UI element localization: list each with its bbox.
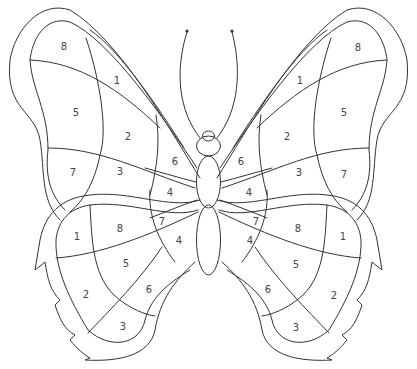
number-label: 7: [341, 169, 347, 180]
number-label: 5: [341, 107, 347, 118]
number-label: 3: [296, 167, 302, 178]
number-label: 2: [331, 290, 337, 301]
number-label: 1: [74, 231, 80, 242]
number-label: 8: [61, 41, 67, 52]
lower-left-numbers: 1 8 5 2 6 3: [74, 223, 152, 332]
upper-right-vein-4: [259, 115, 267, 195]
lower-right-wing: [217, 190, 382, 360]
head: [197, 136, 221, 156]
number-label: 1: [114, 75, 120, 86]
number-label: 4: [246, 187, 252, 198]
number-label: 6: [172, 156, 178, 167]
number-label: 4: [176, 235, 182, 246]
lower-left-wing-inner-outline: [56, 204, 198, 342]
number-label: 8: [117, 223, 123, 234]
number-label: 4: [167, 187, 173, 198]
number-label: 1: [297, 75, 303, 86]
number-label: 5: [73, 107, 79, 118]
body-side-numbers: 4 4 7 7 4 4: [159, 187, 259, 246]
number-label: 6: [238, 156, 244, 167]
number-label: 8: [355, 42, 361, 53]
number-label: 4: [247, 235, 253, 246]
number-label: 3: [117, 166, 123, 177]
number-label: 8: [295, 223, 301, 234]
number-label: 6: [265, 284, 271, 295]
number-label: 5: [293, 259, 299, 270]
right-antenna-tip: [230, 29, 233, 32]
left-antenna: [180, 32, 200, 138]
upper-left-numbers: 8 1 5 2 7 3 6: [61, 41, 178, 178]
upper-right-vein-2: [314, 38, 347, 212]
number-label: 2: [83, 289, 89, 300]
number-label: 3: [120, 321, 126, 332]
upper-left-vein-4: [150, 115, 158, 195]
number-label: 2: [125, 131, 131, 142]
butterfly-drawing: 8 1 5 2 7 3 6 8 1 5 2 7 3 6 4 4 7 7 4 4 …: [0, 0, 417, 369]
number-label: 3: [293, 322, 299, 333]
right-antenna: [217, 32, 237, 138]
thorax: [197, 156, 221, 208]
number-label: 1: [340, 231, 346, 242]
number-label: 2: [284, 131, 290, 142]
lower-right-numbers: 1 8 5 2 6 3: [265, 223, 346, 333]
coloring-page: 8 1 5 2 7 3 6 8 1 5 2 7 3 6 4 4 7 7 4 4 …: [0, 0, 417, 369]
lower-right-wing-inner-outline: [219, 204, 361, 342]
left-antenna-tip: [185, 29, 188, 32]
abdomen: [197, 205, 221, 275]
number-label: 5: [123, 258, 129, 269]
number-label: 7: [159, 216, 165, 227]
number-label: 7: [70, 167, 76, 178]
number-label: 7: [253, 216, 259, 227]
lower-left-wing: [35, 190, 200, 360]
upper-right-numbers: 8 1 5 2 7 3 6: [238, 42, 361, 180]
upper-left-vein-2: [70, 38, 103, 212]
number-label: 6: [146, 284, 152, 295]
